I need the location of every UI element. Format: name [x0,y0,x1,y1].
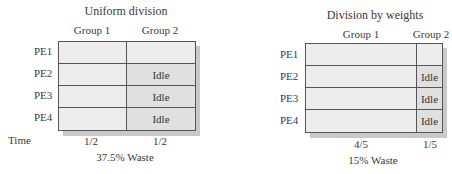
pe-label: PE1 [280,48,298,60]
schedule-table: Idle Idle Idle [305,43,443,133]
idle-cell: Idle [127,64,195,86]
group-1-cell [59,64,127,86]
group-2-header: Group 2 [142,24,178,36]
group-2-cell [417,44,442,66]
pe-label: PE3 [280,92,298,104]
group-2-cell [127,42,195,64]
waste-label: 37.5% Waste [96,151,154,163]
idle-cell: Idle [127,86,195,108]
waste-label: 15% Waste [348,154,397,166]
group-1-header: Group 1 [343,28,379,40]
group-1-cell [306,66,417,88]
time-value: 1/5 [423,138,437,150]
pe-label: PE2 [34,67,52,79]
idle-cell: Idle [127,108,195,130]
group-2-header: Group 2 [413,28,449,40]
pe-label: PE2 [280,70,298,82]
group-1-cell [59,42,127,64]
time-value: 1/2 [153,135,167,147]
diagram-title: Division by weights [327,8,424,23]
group-1-cell [59,108,127,130]
group-1-header: Group 1 [74,24,110,36]
time-value: 1/2 [84,135,98,147]
idle-cell: Idle [417,66,442,88]
group-1-cell [306,44,417,66]
pe-label: PE4 [280,114,298,126]
pe-label: PE1 [34,45,52,57]
pe-label: PE3 [34,89,52,101]
diagram-title: Uniform division [85,4,168,19]
group-1-cell [59,86,127,108]
schedule-table: Idle Idle Idle [58,41,196,131]
time-value: 4/5 [354,138,368,150]
pe-label: PE4 [34,111,52,123]
idle-cell: Idle [417,110,442,132]
group-1-cell [306,88,417,110]
time-label: Time [8,134,31,146]
idle-cell: Idle [417,88,442,110]
group-1-cell [306,110,417,132]
